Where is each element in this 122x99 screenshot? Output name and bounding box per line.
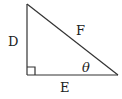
label-f: F <box>76 23 85 38</box>
right-triangle-diagram: D F θ E <box>0 0 122 99</box>
label-d: D <box>8 34 18 49</box>
side-f-line <box>27 4 118 75</box>
label-e: E <box>60 80 70 95</box>
right-angle-marker <box>27 67 35 75</box>
label-theta: θ <box>82 60 90 75</box>
